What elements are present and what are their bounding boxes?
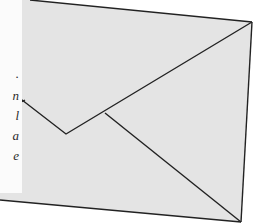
paper-text-fragment: a [13, 128, 20, 143]
letter-paper: . n l a e [0, 0, 22, 193]
paper-text-fragment: l [15, 108, 19, 123]
envelope-graphic [0, 0, 260, 224]
envelope-body [0, 0, 252, 222]
envelope-illustration: . n l a e [0, 0, 260, 224]
paper-text-fragment: n [13, 88, 20, 103]
paper-text-fragment: e [13, 148, 19, 163]
paper-text-fragment: . [16, 66, 19, 81]
